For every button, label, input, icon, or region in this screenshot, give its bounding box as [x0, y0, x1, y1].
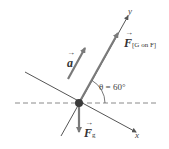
force-g-on-f-arrow: [79, 33, 118, 103]
object-dot: [75, 99, 83, 107]
x-axis-label: x: [135, 130, 139, 140]
vector-arrow-icon: →: [67, 48, 75, 57]
vector-arrow-icon: →: [85, 118, 93, 127]
acceleration-label: → a: [67, 56, 73, 71]
vector-arrow-icon: →: [125, 28, 133, 37]
angle-label: θ = 60°: [99, 82, 126, 92]
y-axis-label: y: [128, 6, 132, 16]
force-gravity-label: → Fg: [84, 126, 96, 141]
force-g-on-f-label: → F[G on F]: [124, 36, 156, 51]
